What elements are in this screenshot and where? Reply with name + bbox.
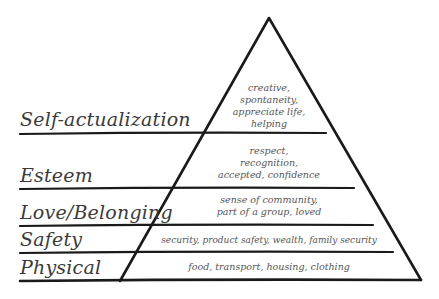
level-description-self-actualization: creative, spontaneity, appreciate life, … xyxy=(209,82,329,130)
divider-esteem xyxy=(20,188,354,189)
level-label-esteem: Esteem xyxy=(20,164,93,186)
divider-love-belonging xyxy=(20,225,373,226)
level-label-safety: Safety xyxy=(20,228,82,250)
level-label-self-actualization: Self-actualization xyxy=(20,108,191,130)
level-description-esteem: respect, recognition, accepted, confiden… xyxy=(209,145,329,181)
maslow-pyramid-diagram: Self-actualization Esteem Love/Belonging… xyxy=(0,0,439,299)
divider-physical xyxy=(20,280,421,281)
level-description-safety: security, product safety, wealth, family… xyxy=(149,234,389,246)
level-description-love-belonging: sense of community, part of a group, lov… xyxy=(199,194,339,218)
divider-self-actualization xyxy=(20,133,326,134)
level-label-physical: Physical xyxy=(20,256,101,278)
level-label-love-belonging: Love/Belonging xyxy=(20,201,173,223)
divider-safety xyxy=(20,252,393,253)
level-description-physical: food, transport, housing, clothing xyxy=(169,261,369,273)
